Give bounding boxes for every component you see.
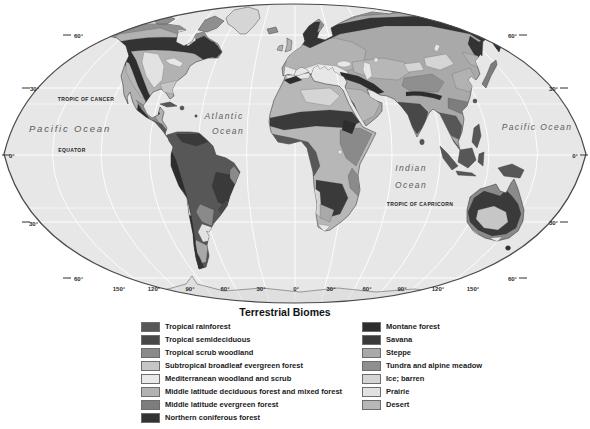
legend-label: Desert <box>386 400 409 409</box>
legend-label: Tropical rainforest <box>165 322 230 331</box>
taiwan <box>473 99 477 103</box>
lon-label: 60° <box>220 286 230 292</box>
legend-label: Mediterranean woodland and scrub <box>165 374 291 383</box>
lon-label: 120° <box>148 286 161 292</box>
legend-label: Tundra and alpine meadow <box>386 361 482 370</box>
lat-label: 30° <box>549 86 559 92</box>
legend-item: Tundra and alpine meadow <box>362 359 482 372</box>
legend-swatch <box>141 400 160 410</box>
legend-item: Middle latitude evergreen forest <box>141 398 342 411</box>
legend-item: Tropical rainforest <box>141 320 342 333</box>
legend-label: Subtropical broadleaf evergreen forest <box>165 361 303 370</box>
legend-label: Middle latitude evergreen forest <box>165 400 278 409</box>
tropic-capricorn-label: TROPIC OF CAPRICORN <box>387 201 454 207</box>
indian-ocean-label: Indian <box>395 163 427 173</box>
legend-swatch <box>362 387 381 397</box>
legend-label: Steppe <box>386 348 411 357</box>
legend-item: Tropical semideciduous <box>141 333 342 346</box>
sri-lanka <box>420 139 424 145</box>
lon-label: 0° <box>293 286 299 292</box>
equator-label: EQUATOR <box>58 147 85 153</box>
globe-interior <box>0 0 590 308</box>
legend-swatch <box>141 387 160 397</box>
atlantic-ocean-label: Ocean <box>212 126 244 136</box>
black-sea <box>337 61 351 67</box>
legend-swatch <box>141 335 160 345</box>
lat-label: 0° <box>9 153 15 159</box>
legend-item: Mediterranean woodland and scrub <box>141 372 342 385</box>
pacific-ocean-west-label: Pacific Ocean <box>29 123 111 134</box>
legend-column-right: Montane forest Savana Steppe Tundra and … <box>362 320 482 411</box>
legend-swatch <box>141 348 160 358</box>
legend-item: Ice; barren <box>362 372 482 385</box>
pacific-ocean-east-label: Pacific Ocean <box>502 122 573 132</box>
new-zealand-north <box>540 233 547 246</box>
legend-item: Desert <box>362 398 482 411</box>
lon-label: 30° <box>256 286 266 292</box>
lon-label: 120° <box>432 286 445 292</box>
legend-label: Tropical semideciduous <box>165 335 250 344</box>
lat-label: 60° <box>508 276 518 282</box>
legend-swatch <box>362 335 381 345</box>
legend-item: Subtropical broadleaf evergreen forest <box>141 359 342 372</box>
lat-label: 30° <box>30 86 40 92</box>
legend-item: Savana <box>362 333 482 346</box>
lesser-antilles <box>195 115 197 117</box>
lon-label: 150° <box>467 286 480 292</box>
lat-label: 60° <box>74 33 84 39</box>
legend-item: Steppe <box>362 346 482 359</box>
legend-label: Prairie <box>386 387 409 396</box>
legend-swatch <box>362 374 381 384</box>
aral-sea <box>374 58 378 62</box>
legend-item: Middle latitude deciduous forest and mix… <box>141 385 342 398</box>
legend-label: Savana <box>386 335 412 344</box>
legend-title: Terrestrial Biomes <box>239 306 330 318</box>
lat-label: 30° <box>29 221 39 227</box>
lat-label: 60° <box>74 276 84 282</box>
legend-item: Prairie <box>362 385 482 398</box>
atlantic-ocean-label: Atlantic <box>203 111 243 121</box>
lon-label: 90° <box>185 286 195 292</box>
world-biome-map: 60° 30° 0° 30° 60° 60° 30° 0° 30° 60° 15… <box>0 0 590 308</box>
lon-label: 30° <box>326 286 336 292</box>
legend-swatch <box>141 374 160 384</box>
indian-ocean-label: Ocean <box>395 180 427 190</box>
legend-swatch <box>362 400 381 410</box>
lat-label: 30° <box>549 220 559 226</box>
lon-label: 150° <box>113 286 126 292</box>
legend-label: Ice; barren <box>386 374 424 383</box>
legend-swatch <box>362 348 381 358</box>
lat-label: 60° <box>508 33 518 39</box>
legend-swatch <box>141 413 160 423</box>
legend-swatch <box>141 361 160 371</box>
hispaniola <box>180 106 184 110</box>
legend-label: Middle latitude deciduous forest and mix… <box>165 387 342 396</box>
legend-swatch <box>362 361 381 371</box>
lake-victoria <box>338 150 342 154</box>
terrestrial-biomes-figure: 60° 30° 0° 30° 60° 60° 30° 0° 30° 60° 15… <box>0 0 590 429</box>
tasmania <box>506 246 511 250</box>
legend-swatch <box>141 322 160 332</box>
tropic-cancer-label: TROPIC OF CANCER <box>58 96 114 102</box>
lat-label: 0° <box>572 153 578 159</box>
new-zealand-south <box>530 245 539 257</box>
legend-column-left: Tropical rainforest Tropical semideciduo… <box>141 320 342 424</box>
legend-item: Northern coniferous forest <box>141 411 342 424</box>
legend-item: Tropical scrub woodland <box>141 346 342 359</box>
legend-item: Montane forest <box>362 320 482 333</box>
legend-label: Montane forest <box>386 322 440 331</box>
lon-label: 90° <box>397 286 407 292</box>
legend-label: Tropical scrub woodland <box>165 348 253 357</box>
legend-swatch <box>362 322 381 332</box>
legend-label: Northern coniferous forest <box>165 413 260 422</box>
lon-label: 60° <box>362 286 372 292</box>
